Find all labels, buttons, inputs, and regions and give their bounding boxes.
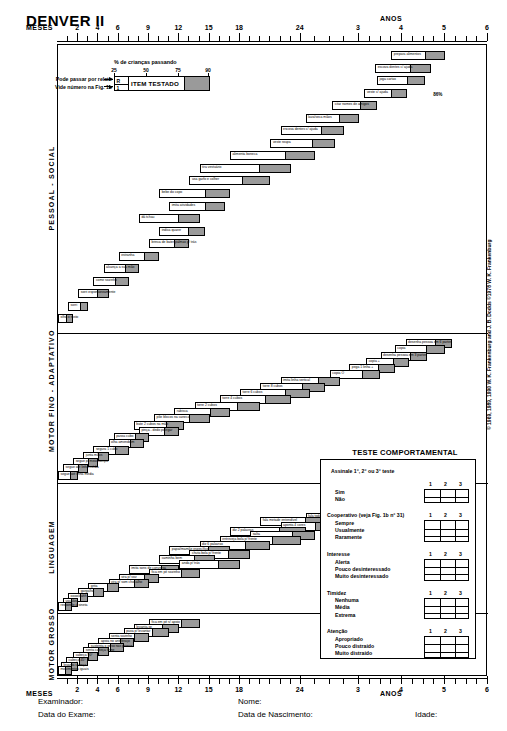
axis-tick bbox=[229, 36, 230, 41]
axis-tick bbox=[369, 36, 370, 41]
copyright-notice: © 1969, 1989, 1990 W. K. Frankenburg and… bbox=[486, 200, 492, 430]
axis-bottom: 2469121518243456 bbox=[57, 676, 487, 698]
milestone-bar-gray-segment bbox=[134, 634, 148, 641]
milestone-bar[interactable]: escova dentes c/ ajuda bbox=[281, 126, 345, 135]
axis-tick bbox=[269, 36, 270, 41]
milestone-bar[interactable]: bebe do copo bbox=[159, 189, 230, 198]
behavioral-checkbox-grid[interactable] bbox=[424, 559, 469, 581]
milestone-label: põe blocos na caneca bbox=[157, 415, 190, 419]
milestone-bar[interactable]: sorri bbox=[68, 302, 88, 311]
behavioral-option[interactable]: Pouco distraído bbox=[335, 643, 374, 649]
axis-tick bbox=[148, 33, 149, 41]
axis-tick-label: 12 bbox=[174, 24, 182, 31]
milestone-bar[interactable]: veste roupa bbox=[270, 139, 334, 148]
milestone-bar[interactable]: segue até linha média bbox=[58, 471, 78, 480]
behavioral-checkbox-grid[interactable] bbox=[424, 520, 469, 542]
axis-tick bbox=[380, 679, 381, 684]
grid-line-horizontal bbox=[425, 652, 468, 653]
milestone-bar-gray-segment bbox=[362, 371, 380, 378]
milestone-bar[interactable]: lava/seca mãos bbox=[306, 114, 359, 123]
milestone-bar[interactable]: dá tchau bbox=[139, 214, 200, 223]
behavioral-option[interactable]: Muito distraído bbox=[335, 650, 372, 656]
axis-tick-label: 9 bbox=[146, 24, 150, 31]
behavioral-option[interactable]: Alerta bbox=[335, 559, 350, 565]
axis-tick bbox=[455, 679, 456, 684]
behavioral-option[interactable]: Raramente bbox=[335, 534, 362, 540]
milestone-bar[interactable]: citar nomes de amigos bbox=[332, 101, 377, 110]
milestone-bar[interactable]: imita atividades bbox=[169, 202, 225, 211]
behavioral-option[interactable]: Muito desinteressado bbox=[335, 573, 388, 579]
axis-tick bbox=[97, 33, 98, 41]
milestone-bar[interactable]: alcança a sua mão bbox=[104, 264, 139, 273]
behavioral-test-title: TESTE COMPORTAMENTAL bbox=[335, 448, 475, 457]
axis-tick-label: 12 bbox=[174, 686, 182, 693]
milestone-bar-gray-segment bbox=[93, 589, 102, 596]
axis-tick bbox=[412, 36, 413, 41]
behavioral-option[interactable]: Usualmente bbox=[335, 527, 364, 533]
axis-tick bbox=[138, 679, 139, 684]
milestone-bar[interactable]: movimentos iguais bbox=[58, 666, 72, 675]
milestone-bar[interactable]: joga cartas bbox=[377, 76, 425, 85]
milestone-bar[interactable]: estranha bbox=[119, 252, 159, 261]
milestone-bar[interactable]: anda p/ trás bbox=[179, 560, 240, 569]
axis-tick-label: 4 bbox=[96, 24, 100, 31]
behavioral-option[interactable]: Apropriado bbox=[335, 636, 363, 642]
milestone-bar[interactable]: prepara alimentos bbox=[391, 51, 445, 60]
milestone-bar-gray-segment bbox=[189, 415, 208, 422]
behavioral-option[interactable]: Média bbox=[335, 604, 350, 610]
field-examiner[interactable]: Examinador: bbox=[38, 697, 83, 706]
grid-line-vertical bbox=[440, 490, 441, 502]
behavioral-group-name: Cooperativo (veja Fig. 1b n° 31) bbox=[327, 512, 404, 518]
field-age[interactable]: Idade: bbox=[415, 710, 437, 719]
behavioral-option[interactable]: Pouco desinteressado bbox=[335, 566, 390, 572]
milestone-bar[interactable]: indica quarer bbox=[159, 227, 205, 236]
axis-tick bbox=[280, 36, 281, 41]
axis-tick bbox=[118, 33, 119, 41]
milestone-bar[interactable]: brinca de bater palmas p/ trás bbox=[149, 239, 189, 248]
milestone-bar-gray-segment bbox=[144, 253, 158, 260]
milestone-bar-gray-segment bbox=[205, 203, 224, 210]
axis-tick bbox=[444, 33, 445, 41]
axis-tick bbox=[158, 36, 159, 41]
milestone-bar-gray-segment bbox=[152, 629, 168, 636]
behavioral-option[interactable]: Extrema bbox=[335, 612, 355, 618]
axis-tick bbox=[199, 36, 200, 41]
behavioral-checkbox-grid[interactable] bbox=[424, 636, 469, 658]
milestone-bar[interactable]: veste c/ ajuda bbox=[364, 89, 407, 98]
milestone-label: desenha pessoa em 6 partes bbox=[408, 340, 452, 344]
axis-tick bbox=[77, 33, 78, 41]
behavioral-instruction: Assinale 1°, 2° ou 3° teste bbox=[331, 468, 394, 474]
axis-tick-label: 2 bbox=[75, 686, 79, 693]
milestone-bar[interactable]: come sozinho bbox=[93, 277, 128, 286]
behavioral-option[interactable]: Não bbox=[335, 496, 345, 502]
milestone-bar[interactable]: tira vestuário bbox=[200, 164, 291, 173]
field-birth-date[interactable]: Data de Nascimento: bbox=[238, 710, 313, 719]
grid-line-vertical bbox=[440, 599, 441, 619]
field-name[interactable]: Nome: bbox=[238, 697, 262, 706]
behavioral-option[interactable]: Nenhuma bbox=[335, 597, 359, 603]
behavioral-checkbox-grid[interactable] bbox=[424, 489, 469, 503]
legend-divider-vertical bbox=[128, 77, 129, 90]
axis-tick bbox=[138, 36, 139, 41]
behavioral-option[interactable]: Sim bbox=[335, 489, 345, 495]
axis-tick bbox=[401, 676, 402, 684]
milestone-bar[interactable]: sorri espontaneamente bbox=[78, 289, 108, 298]
behavioral-column-header: 2 bbox=[444, 590, 447, 596]
milestone-bar[interactable]: usa garfo e colher bbox=[189, 176, 270, 185]
axis-tick bbox=[249, 679, 250, 684]
axis-unit-months-top: MESES bbox=[26, 24, 53, 31]
behavioral-option[interactable]: Sempre bbox=[335, 520, 354, 526]
axis-tick bbox=[314, 679, 315, 684]
axis-tick-label: 18 bbox=[235, 24, 243, 31]
milestone-bar[interactable]: escova dentes c/ ajuda bbox=[375, 64, 431, 73]
axis-tick bbox=[280, 679, 281, 684]
behavioral-checkbox-grid[interactable] bbox=[424, 598, 469, 620]
grid-line-vertical bbox=[440, 521, 441, 541]
field-exam-date[interactable]: Data do Exame: bbox=[38, 710, 95, 719]
milestone-bar[interactable]: alimenta boneca bbox=[230, 151, 315, 160]
behavioral-group-name: Interesse bbox=[327, 551, 350, 557]
milestone-bar[interactable]: responde à sineta bbox=[58, 602, 72, 611]
grid-line-vertical bbox=[455, 560, 456, 580]
behavioral-column-header: 1 bbox=[429, 481, 432, 487]
milestone-bar[interactable]: olha o rosto bbox=[58, 314, 73, 323]
